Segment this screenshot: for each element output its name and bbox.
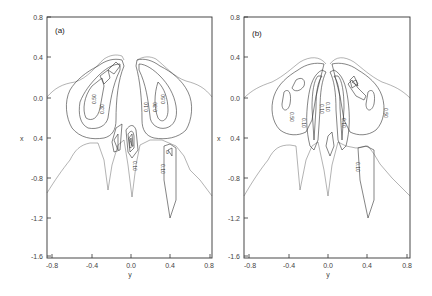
panel-label-b: (b) — [252, 29, 262, 38]
x-tick-label: 0.8 — [402, 262, 412, 269]
x-tick-label: 0.8 — [204, 262, 214, 269]
panel-b: (b) 0.8 0.4 0.0 0.4 -0.8 -1.2 -1.6 x -0.… — [217, 14, 412, 279]
y-tick-label: -0.8 — [31, 175, 43, 182]
contour-label: 0.10 — [160, 164, 166, 174]
x-tick-label: -0.8 — [244, 262, 256, 269]
y-tick-label: -1.6 — [228, 253, 240, 260]
contour-label: 0.10 — [301, 118, 307, 128]
y-tick-label: -1.2 — [31, 215, 43, 222]
y-tick-label: 0.4 — [230, 54, 240, 61]
contours-a: 0.50 0.30 0.10 0.30 0.50 0.10 0.10 0 — [47, 55, 212, 218]
y-tick-label: -1.6 — [31, 253, 43, 260]
y-tick-label: 0.0 — [33, 95, 43, 102]
y-tick-label: 0.4 — [33, 54, 43, 61]
x-tick-label: -0.4 — [86, 262, 98, 269]
y-axis-label: x — [20, 135, 24, 142]
contour-label: 0.50 — [289, 112, 295, 122]
contour-label: 0.50 — [383, 108, 389, 118]
y-axis-a: 0.8 0.4 0.0 0.4 -0.8 -1.2 -1.6 x — [20, 14, 51, 260]
y-tick-label: 0.0 — [230, 95, 240, 102]
y-tick-label: 0.8 — [230, 14, 240, 21]
contour-label: 0.10 — [143, 102, 149, 112]
y-tick-label: -1.2 — [228, 215, 240, 222]
contour-label: 0.10 — [319, 104, 325, 114]
x-axis-label: y — [128, 271, 132, 279]
contour-label: 0 — [166, 149, 169, 155]
contour-label: 0.10 — [132, 161, 138, 171]
y-tick-label: 0.4 — [230, 135, 240, 142]
figure: (a) 0.8 0.4 0.0 0.4 -0.8 -1.2 -1.6 x — [0, 0, 432, 296]
x-axis-label: y — [326, 271, 330, 279]
y-tick-label: -0.8 — [228, 175, 240, 182]
x-tick-label: 0.0 — [323, 262, 333, 269]
contour-label: 0.10 — [355, 162, 361, 172]
x-tick-label: 0.0 — [126, 262, 136, 269]
plot-frame-b — [244, 17, 410, 258]
contour-label: 0.10 — [341, 118, 347, 128]
y-tick-label: 0.8 — [33, 14, 43, 21]
x-tick-label: -0.8 — [46, 262, 58, 269]
contour-label: 0.10 — [325, 102, 331, 112]
contour-label: 0.50 — [91, 94, 97, 104]
panel-label-a: (a) — [55, 26, 65, 35]
y-axis-b: 0.8 0.4 0.0 0.4 -0.8 -1.2 -1.6 x — [217, 14, 248, 260]
y-axis-label: x — [217, 135, 221, 142]
contours-b: 0.50 0.10 0.10 0.10 0.10 0.50 0.10 — [244, 58, 410, 218]
contour-label: 0.30 — [152, 102, 158, 112]
y-tick-label: 0.4 — [33, 135, 43, 142]
contour-label: 0.50 — [160, 94, 166, 104]
x-tick-label: 0.4 — [362, 262, 372, 269]
x-tick-label: 0.4 — [165, 262, 175, 269]
x-tick-label: -0.4 — [283, 262, 295, 269]
panel-a: (a) 0.8 0.4 0.0 0.4 -0.8 -1.2 -1.6 x — [20, 14, 214, 279]
contour-label: 0.30 — [99, 104, 105, 114]
